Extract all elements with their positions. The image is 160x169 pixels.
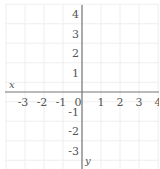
y-tick-label: 1 (72, 67, 79, 80)
coordinate-plane: x y -3-2-101234 4321-1-2-3 (0, 0, 159, 169)
x-tick-label: 3 (136, 96, 143, 109)
x-tick-label: 1 (98, 96, 105, 109)
x-tick-labels: -3-2-101234 (18, 96, 159, 109)
x-axis-label: x (9, 79, 15, 90)
x-tick-label: 4 (155, 96, 160, 109)
y-tick-label: -1 (68, 106, 79, 119)
y-tick-label: 3 (72, 28, 79, 41)
y-tick-label: -3 (68, 145, 79, 158)
y-tick-label: 2 (72, 47, 79, 60)
x-tick-label: -1 (56, 96, 67, 109)
x-tick-label: -3 (18, 96, 29, 109)
x-tick-label: 2 (117, 96, 124, 109)
y-tick-label: 4 (72, 8, 79, 21)
x-tick-label: -2 (37, 96, 48, 109)
y-tick-label: -2 (68, 125, 79, 138)
y-axis-label: y (84, 155, 91, 166)
